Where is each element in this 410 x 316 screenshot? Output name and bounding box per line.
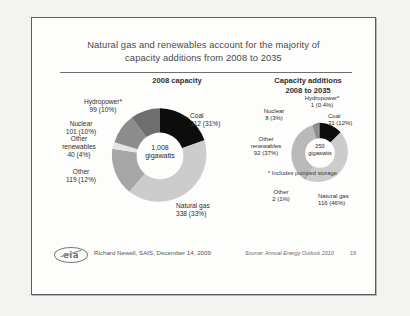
label-hydropower-left-value: 99 (10%) <box>90 106 117 113</box>
label-coal-right: Coal 31 (12%) <box>328 113 376 127</box>
label-nuclear-left: Nuclear 101 (10%) <box>46 120 116 136</box>
label-other-renewables-right-value: 92 (37%) <box>254 150 278 156</box>
label-other-renewables-left-name2: renewables <box>62 143 96 150</box>
label-coal-right-name: Coal <box>328 113 340 119</box>
label-other-left: Other 119 (12%) <box>46 168 116 184</box>
chart-header-left: 2008 capacity <box>122 76 232 86</box>
title-line-2: capacity additions from 2008 to 2035 <box>32 51 375 64</box>
label-natural-gas-right-value: 116 (46%) <box>318 200 345 206</box>
donut-chart-capacity-additions: 250 gigawatts <box>287 120 353 186</box>
footer-byline: Richard Newell, SAIS, December 14, 2009 <box>94 249 211 256</box>
label-nuclear-right-name: Nuclear <box>264 108 285 114</box>
slide-footer: eia Richard Newell, SAIS, December 14, 2… <box>32 243 375 273</box>
slide-canvas: Natural gas and renewables account for t… <box>31 17 376 295</box>
title-divider <box>60 72 352 73</box>
label-nuclear-right-value: 8 (3%) <box>265 115 283 121</box>
label-nuclear-right: Nuclear 8 (3%) <box>248 108 300 122</box>
label-coal-left: Coal 312 (31%) <box>190 112 250 128</box>
label-hydropower-right-value: 1 (0.4%) <box>311 102 334 108</box>
label-natural-gas-left-value: 338 (33%) <box>176 210 206 217</box>
label-hydropower-left-name: Hydropower* <box>84 98 122 105</box>
chart-panel-2008-capacity: 1,008 gigawatts Hydropower* 99 (10%) Nuc… <box>40 92 245 242</box>
label-coal-right-value: 31 (12%) <box>328 120 352 126</box>
footer-page-number: 19 <box>350 250 356 256</box>
label-other-right: Other 2 (1%) <box>260 189 302 203</box>
label-hydropower-right-name: Hydropower* <box>305 95 340 101</box>
label-natural-gas-left-name: Natural gas <box>176 202 210 209</box>
label-other-left-value: 119 (12%) <box>66 176 96 183</box>
label-natural-gas-right: Natural gas 116 (46%) <box>318 193 376 207</box>
donut-svg-right <box>287 120 353 186</box>
chart-header-right-line-1: Capacity additions <box>274 76 342 85</box>
label-nuclear-left-value: 101 (10%) <box>66 128 96 135</box>
label-hydropower-left: Hydropower* 99 (10%) <box>60 98 146 114</box>
chart-panel-capacity-additions: 250 gigawatts Hydropower* 1 (0.4%) Nucle… <box>242 92 375 242</box>
label-natural-gas-left: Natural gas 338 (33%) <box>176 202 246 218</box>
label-other-renewables-left-name: Other <box>71 135 88 142</box>
slide-title: Natural gas and renewables account for t… <box>32 38 375 64</box>
label-natural-gas-right-name: Natural gas <box>318 193 349 199</box>
donut-hole-right <box>305 138 335 168</box>
label-other-renewables-left-value: 40 (4%) <box>67 151 90 158</box>
label-other-right-value: 2 (1%) <box>272 196 290 202</box>
footer-source: Source: Annual Energy Outlook 2010 <box>245 250 334 256</box>
label-other-left-name: Other <box>73 168 90 175</box>
donut-hole-left <box>137 133 184 180</box>
label-other-renewables-right-name: Other <box>258 136 273 142</box>
chart-footnote: * Includes pumped storage <box>268 170 337 176</box>
label-coal-left-name: Coal <box>190 112 204 119</box>
label-other-renewables-right-name2: renewables <box>251 143 282 149</box>
label-coal-left-value: 312 (31%) <box>190 120 220 127</box>
label-nuclear-left-name: Nuclear <box>70 120 93 127</box>
label-other-renewables-right: Other renewables 92 (37%) <box>238 136 294 157</box>
label-other-renewables-left: Other renewables 40 (4%) <box>42 135 116 158</box>
eia-logo: eia <box>54 247 88 263</box>
label-other-right-name: Other <box>273 189 288 195</box>
title-line-1: Natural gas and renewables account for t… <box>87 39 320 50</box>
